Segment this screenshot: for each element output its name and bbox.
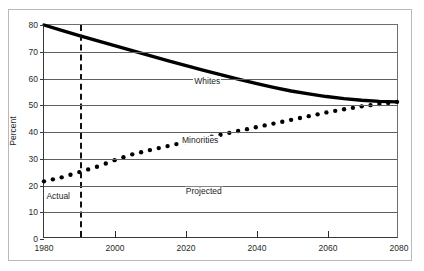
series-dot-minorities bbox=[104, 161, 108, 165]
y-axis-title: Percent bbox=[9, 116, 18, 145]
plot-area: 0102030405060708019802000202020402060208… bbox=[43, 24, 398, 238]
series-dot-minorities bbox=[42, 179, 46, 183]
gridline-y bbox=[44, 105, 397, 106]
annotation-whites: Whites bbox=[193, 77, 221, 86]
series-dot-minorities bbox=[86, 167, 90, 171]
y-tick-mark bbox=[40, 52, 44, 53]
y-tick-mark bbox=[40, 105, 44, 106]
y-tick-mark bbox=[40, 25, 44, 26]
series-dot-minorities bbox=[174, 142, 178, 146]
y-tick-label: 80 bbox=[29, 21, 38, 30]
x-tick-mark bbox=[328, 231, 329, 238]
gridline-y bbox=[44, 132, 397, 133]
series-dot-minorities bbox=[342, 107, 346, 111]
x-tick-label: 1980 bbox=[35, 244, 54, 253]
actual-projected-divider bbox=[80, 25, 82, 237]
series-dot-minorities bbox=[315, 112, 319, 116]
y-tick-mark bbox=[40, 239, 44, 240]
series-dot-minorities bbox=[262, 123, 266, 127]
x-tick-label: 2080 bbox=[390, 244, 409, 253]
gridline-y bbox=[44, 52, 397, 53]
y-tick-mark bbox=[40, 132, 44, 133]
series-dot-minorities bbox=[59, 175, 63, 179]
series-dot-minorities bbox=[395, 100, 399, 104]
x-tick-label: 2020 bbox=[177, 244, 196, 253]
x-tick-label: 2040 bbox=[248, 244, 267, 253]
series-dot-minorities bbox=[165, 144, 169, 148]
y-tick-label: 50 bbox=[29, 101, 38, 110]
series-dot-minorities bbox=[324, 110, 328, 114]
y-tick-mark bbox=[40, 186, 44, 187]
y-tick-label: 30 bbox=[29, 155, 38, 164]
series-dot-minorities bbox=[351, 106, 355, 110]
series-dot-minorities bbox=[157, 146, 161, 150]
series-dot-minorities bbox=[68, 173, 72, 177]
plot-wrapper: Percent 01020304050607080198020002020204… bbox=[0, 0, 424, 271]
gridline-y bbox=[44, 212, 397, 213]
y-tick-label: 40 bbox=[29, 128, 38, 137]
y-tick-label: 10 bbox=[29, 208, 38, 217]
series-dot-minorities bbox=[130, 152, 134, 156]
series-layer bbox=[44, 25, 397, 237]
x-tick-mark bbox=[257, 231, 258, 238]
series-dot-minorities bbox=[307, 114, 311, 118]
series-dot-minorities bbox=[245, 127, 249, 131]
series-dot-minorities bbox=[51, 177, 55, 181]
annotation-projected: Projected bbox=[185, 187, 223, 196]
x-tick-mark bbox=[115, 231, 116, 238]
series-dot-minorities bbox=[139, 150, 143, 154]
y-tick-label: 0 bbox=[33, 235, 38, 244]
y-tick-label: 20 bbox=[29, 181, 38, 190]
series-dot-minorities bbox=[333, 109, 337, 113]
gridline-y bbox=[44, 159, 397, 160]
series-dot-minorities bbox=[148, 148, 152, 152]
y-tick-label: 60 bbox=[29, 74, 38, 83]
series-dot-minorities bbox=[280, 120, 284, 124]
y-tick-mark bbox=[40, 212, 44, 213]
series-dot-minorities bbox=[289, 118, 293, 122]
annotation-minorities: Minorities bbox=[181, 136, 219, 145]
y-tick-mark bbox=[40, 159, 44, 160]
series-dot-minorities bbox=[298, 116, 302, 120]
series-dot-minorities bbox=[254, 125, 258, 129]
x-tick-label: 2060 bbox=[319, 244, 338, 253]
y-tick-label: 70 bbox=[29, 48, 38, 57]
series-line-whites bbox=[44, 25, 397, 102]
x-tick-label: 2000 bbox=[106, 244, 125, 253]
series-dot-minorities bbox=[95, 165, 99, 169]
x-tick-mark bbox=[186, 231, 187, 238]
series-dot-minorities bbox=[271, 121, 275, 125]
annotation-actual: Actual bbox=[45, 192, 71, 201]
y-tick-mark bbox=[40, 79, 44, 80]
chart-figure: Percent 01020304050607080198020002020204… bbox=[0, 0, 424, 271]
